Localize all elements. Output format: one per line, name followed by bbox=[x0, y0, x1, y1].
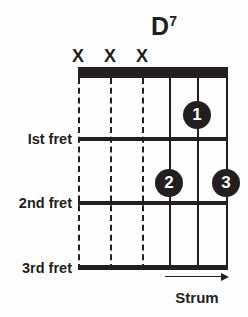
fret-label-3: 3rd fret bbox=[22, 261, 72, 276]
fret-label-1: Ist fret bbox=[28, 132, 72, 147]
string-1 bbox=[78, 78, 80, 270]
fret-label-2: 2nd fret bbox=[19, 196, 72, 211]
fret-line-1 bbox=[78, 137, 228, 141]
nut-bar bbox=[78, 67, 228, 78]
chord-root-label: D bbox=[151, 12, 169, 40]
mute-marker-string-1: X bbox=[69, 46, 87, 66]
finger-dot-1: 1 bbox=[183, 101, 211, 129]
finger-dot-2: 2 bbox=[155, 169, 183, 197]
mute-marker-row: X X X bbox=[0, 46, 248, 68]
chord-title: D7 bbox=[0, 14, 248, 39]
strum-arrow-shaft bbox=[165, 276, 222, 277]
strum-arrow bbox=[165, 271, 229, 283]
fret-line-2 bbox=[78, 201, 228, 205]
finger-dot-3: 3 bbox=[212, 169, 240, 197]
chord-title-inner: D7 bbox=[151, 14, 177, 39]
string-2 bbox=[110, 78, 112, 270]
string-3 bbox=[142, 78, 144, 270]
fret-line-3 bbox=[78, 265, 228, 270]
strum-arrow-head-icon bbox=[221, 273, 229, 281]
mute-marker-string-3: X bbox=[133, 46, 151, 66]
mute-marker-string-2: X bbox=[101, 46, 119, 66]
chord-diagram: D7 X X X Ist fret 2nd fret 3rd fret 1 2 … bbox=[0, 0, 248, 317]
strum-label: Strum bbox=[165, 290, 229, 305]
chord-superscript-label: 7 bbox=[169, 13, 177, 29]
